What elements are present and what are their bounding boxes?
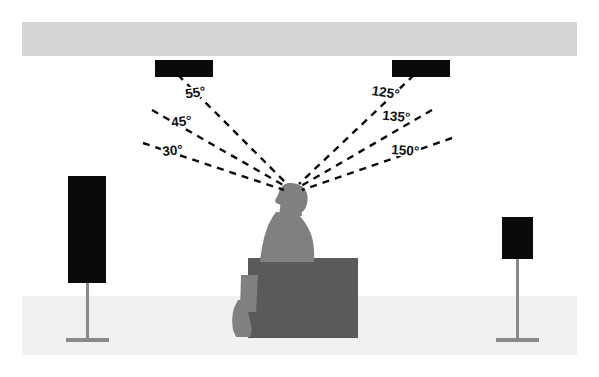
floor-speaker-left-pole <box>86 283 89 340</box>
diagram-canvas: 55°55°45°45°30°30°125°125°135°135°150°15… <box>0 0 599 377</box>
ceiling-band <box>22 22 577 56</box>
ray-135-label: 135° <box>382 108 411 125</box>
ceiling-speaker-right <box>392 60 450 77</box>
ceiling-speaker-left <box>155 60 213 77</box>
floor-speaker-right-base <box>496 338 539 342</box>
couch-block <box>248 258 358 338</box>
ray-30-label: 30° <box>162 142 184 159</box>
ray-45-label: 45° <box>171 113 193 130</box>
speaker-angle-diagram: 55°55°45°45°30°30°125°125°135°135°150°15… <box>0 0 599 377</box>
floor-speaker-right-cabinet <box>502 217 533 259</box>
floor-speaker-right-pole <box>516 259 519 340</box>
floor-speaker-left-cabinet <box>68 176 106 283</box>
ray-150-label: 150° <box>391 142 420 159</box>
floor-speaker-left-base <box>66 338 109 342</box>
ray-55-label: 55° <box>184 84 206 102</box>
